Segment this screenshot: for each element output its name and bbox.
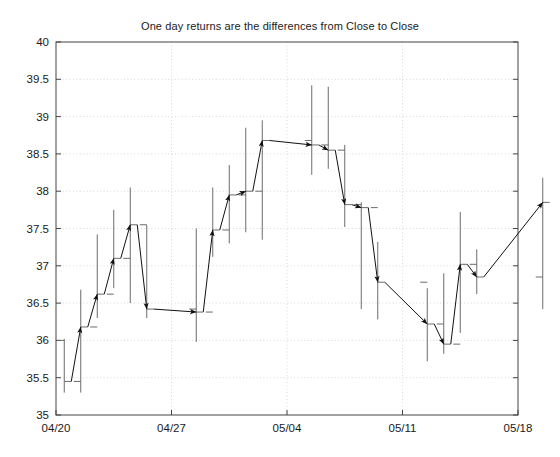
hlc-bar [420, 282, 434, 361]
close-to-close-arrow [269, 140, 312, 144]
hlc-bar [437, 273, 451, 354]
chart-root: One day returns are the differences from… [0, 0, 560, 457]
close-to-close-arrow [335, 150, 345, 204]
ytick-label: 40 [36, 36, 49, 48]
hlc-bar [74, 290, 88, 393]
hlc-bar [239, 128, 253, 232]
hlc-bar [470, 249, 484, 294]
ytick-label: 36 [36, 334, 49, 346]
xtick-label: 05/04 [273, 422, 302, 434]
hlc-bar [371, 208, 385, 320]
hlc-bar [206, 187, 220, 312]
hlc-bar [57, 339, 71, 393]
close-to-close-arrow [368, 208, 378, 283]
xtick-label: 05/18 [504, 422, 533, 434]
hlc-bar [453, 212, 467, 344]
hlc-bar [305, 85, 319, 175]
hlc-bar [354, 202, 368, 309]
hlc-bar [123, 187, 137, 303]
close-to-close-arrow [319, 145, 329, 150]
close-to-close-arrow [434, 324, 444, 344]
close-to-close-arrow [71, 327, 81, 381]
xtick-label: 04/27 [157, 422, 186, 434]
close-to-close-arrow [203, 230, 213, 312]
close-to-close-arrow [467, 264, 477, 277]
hlc-bar [338, 145, 352, 227]
close-to-close-arrow [220, 195, 230, 230]
ytick-label: 38.5 [27, 148, 49, 160]
close-to-close-arrow [88, 294, 98, 327]
ytick-label: 39 [36, 111, 49, 123]
hlc-bar [189, 229, 203, 342]
hlc-bar [255, 120, 269, 239]
hlc-bar [90, 234, 104, 327]
ytick-label: 37.5 [27, 223, 49, 235]
close-to-close-arrow [137, 225, 147, 309]
ytick-label: 35.5 [27, 372, 49, 384]
close-to-close-arrow [236, 191, 246, 195]
close-to-close-arrow [104, 258, 114, 294]
chart-plot-area: 3535.53636.53737.53838.53939.54004/2004/… [0, 0, 560, 457]
ytick-label: 38 [36, 185, 49, 197]
hlc-bar [140, 225, 154, 318]
ytick-label: 35 [36, 409, 49, 421]
hlc-bar [222, 165, 236, 243]
ytick-label: 37 [36, 260, 49, 272]
ytick-label: 39.5 [27, 73, 49, 85]
hlc-bar [536, 178, 550, 309]
ytick-label: 36.5 [27, 297, 49, 309]
close-to-close-arrow [385, 282, 428, 324]
hlc-bar [107, 210, 121, 294]
xtick-label: 05/11 [389, 422, 417, 434]
hlc-bar [321, 87, 335, 169]
xtick-label: 04/20 [42, 422, 71, 434]
close-to-close-arrow [253, 140, 263, 191]
close-to-close-arrow [451, 264, 461, 344]
close-to-close-arrow [121, 225, 131, 259]
